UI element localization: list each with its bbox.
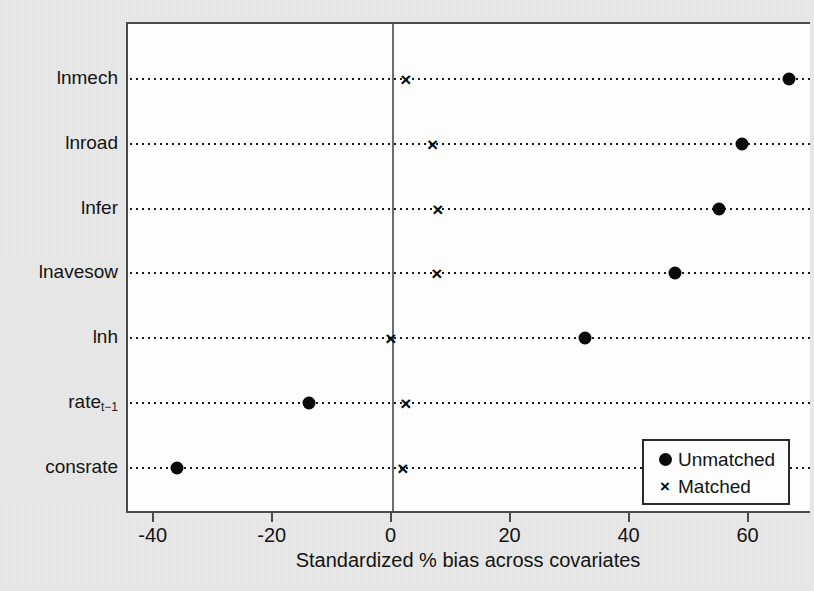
row-gridline bbox=[128, 78, 810, 80]
y-tick-label-rate: ratet−1 bbox=[68, 392, 118, 411]
x-tick bbox=[390, 513, 392, 522]
y-tick-label-lnh: lnh bbox=[93, 327, 118, 346]
y-tick-label-lnavesow: lnavesow bbox=[39, 262, 118, 281]
row-gridline bbox=[128, 337, 810, 339]
zero-reference-line bbox=[392, 24, 394, 511]
legend-label-matched: Matched bbox=[678, 476, 751, 498]
x-tick-label: 20 bbox=[499, 524, 521, 547]
x-tick-label: -20 bbox=[257, 524, 286, 547]
y-axis-labels: lnmechlnroadlnferlnavesowlnhratet−1consr… bbox=[0, 22, 118, 513]
datapoint-unmatched-rate bbox=[303, 397, 316, 410]
legend-label-unmatched: Unmatched bbox=[678, 449, 775, 471]
datapoint-matched-lnfer: × bbox=[432, 199, 443, 218]
circle-marker-icon bbox=[654, 453, 676, 466]
datapoint-unmatched-lnavesow bbox=[668, 267, 681, 280]
x-axis-title: Standardized % bias across covariates bbox=[126, 549, 810, 572]
datapoint-unmatched-lnfer bbox=[712, 202, 725, 215]
row-gridline bbox=[128, 208, 810, 210]
datapoint-unmatched-consrate bbox=[170, 461, 183, 474]
y-tick-label-lnfer: lnfer bbox=[81, 197, 118, 216]
chart-legend: Unmatched × Matched bbox=[642, 439, 790, 505]
datapoint-matched-lnroad: × bbox=[427, 134, 438, 153]
y-tick-label-lnmech: lnmech bbox=[57, 68, 118, 87]
standardized-bias-chart: lnmechlnroadlnferlnavesowlnhratet−1consr… bbox=[0, 0, 814, 591]
y-tick-label-consrate: consrate bbox=[45, 456, 118, 475]
x-tick bbox=[271, 513, 273, 522]
datapoint-matched-lnh: × bbox=[385, 329, 396, 348]
x-tick-label: -40 bbox=[138, 524, 167, 547]
datapoint-matched-lnavesow: × bbox=[431, 264, 442, 283]
row-gridline bbox=[128, 402, 810, 404]
datapoint-unmatched-lnroad bbox=[735, 137, 748, 150]
datapoint-matched-rate: × bbox=[400, 394, 411, 413]
legend-entry-unmatched: Unmatched bbox=[654, 446, 788, 473]
datapoint-matched-consrate: × bbox=[397, 458, 408, 477]
legend-entry-matched: × Matched bbox=[654, 473, 788, 500]
x-tick-label: 60 bbox=[736, 524, 758, 547]
row-gridline bbox=[128, 272, 810, 274]
x-marker-icon: × bbox=[654, 477, 676, 497]
x-tick bbox=[152, 513, 154, 522]
datapoint-unmatched-lnh bbox=[578, 332, 591, 345]
plot-inner: ××××××× bbox=[128, 24, 810, 511]
x-tick bbox=[747, 513, 749, 522]
datapoint-matched-lnmech: × bbox=[400, 70, 411, 89]
x-tick-label: 0 bbox=[385, 524, 396, 547]
x-tick-label: 40 bbox=[617, 524, 639, 547]
x-tick bbox=[628, 513, 630, 522]
datapoint-unmatched-lnmech bbox=[783, 73, 796, 86]
row-gridline bbox=[128, 143, 810, 145]
x-tick bbox=[509, 513, 511, 522]
y-tick-label-lnroad: lnroad bbox=[65, 132, 118, 151]
